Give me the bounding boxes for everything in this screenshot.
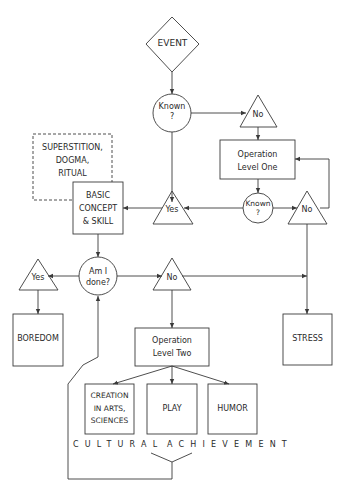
boredom-label: BOREDOM [13,334,63,344]
creation-line3: SCIENCES [85,415,134,428]
superstition-line1: SUPERSTITION, [33,141,112,154]
op2-line2: Level Two [135,347,209,360]
basic-concept-label: BASIC CONCEPT & SKILL [73,189,123,228]
event-label: EVENT [146,38,199,49]
yes-1-label: Yes [156,205,188,215]
humor-label: HUMOR [208,404,257,414]
known-2-line2: ? [243,208,273,217]
creation-line2: IN ARTS, [85,403,134,416]
op1-line2: Level One [220,161,295,174]
am-i-done-line2: done? [79,277,117,288]
stress-label: STRESS [283,334,332,344]
known-1-line2: ? [153,112,191,122]
achievement-label: ACHIEVEMENT [167,440,293,450]
basic-line2: CONCEPT [73,202,123,215]
known-1-line1: Known [153,102,191,112]
cultural-label: CULTURAL [73,440,163,450]
superstition-line2: DOGMA, [33,154,112,167]
op1-line1: Operation [220,148,295,161]
superstition-line3: RITUAL [33,167,112,180]
no-1-label: No [244,110,272,120]
superstition-label: SUPERSTITION, DOGMA, RITUAL [33,141,112,180]
am-i-done-label: Am I done? [79,266,117,288]
creation-line1: CREATION [85,390,134,403]
am-i-done-line1: Am I [79,266,117,277]
no-3-label: No [158,273,186,283]
basic-line3: & SKILL [73,215,123,228]
flowchart-canvas [0,0,347,494]
operation-level-two-label: Operation Level Two [135,334,209,360]
known-2-label: Known ? [243,199,273,217]
operation-level-one-label: Operation Level One [220,148,295,174]
creation-label: CREATION IN ARTS, SCIENCES [85,390,134,428]
basic-line1: BASIC [73,189,123,202]
play-label: PLAY [147,404,197,414]
no-2-label: No [293,205,321,215]
op2-line1: Operation [135,334,209,347]
known-2-line1: Known [243,199,273,208]
known-1-label: Known ? [153,102,191,122]
yes-2-label: Yes [22,273,54,283]
